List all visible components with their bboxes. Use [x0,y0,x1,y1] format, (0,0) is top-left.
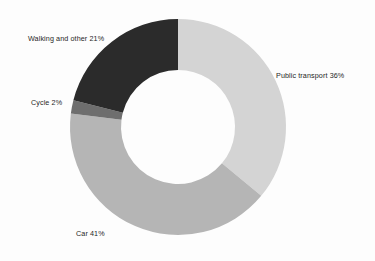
donut-slice-car [70,113,261,235]
donut-chart: Public transport 36% Car 41% Cycle 2% Wa… [0,0,375,261]
slice-label-car: Car 41% [76,230,105,238]
slice-label-cycle: Cycle 2% [31,99,62,107]
donut-slice-group [70,19,286,235]
slice-label-public-transport: Public transport 36% [276,72,344,80]
slice-label-walking-and-other: Walking and other 21% [28,35,104,43]
donut-slice-public-transport [178,19,286,196]
